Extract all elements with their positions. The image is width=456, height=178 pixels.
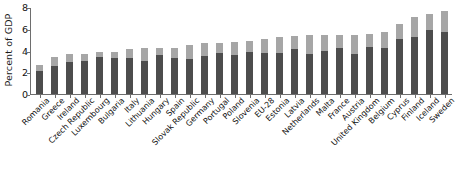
bar[interactable]: [216, 43, 224, 94]
bar[interactable]: [261, 39, 269, 94]
x-axis-category-labels: RomaniaGreeceIrelandCzech RepublicLuxemb…: [30, 96, 454, 178]
y-tick-mark: [27, 73, 30, 74]
bar-segment-lower: [411, 37, 419, 94]
bar-segment-lower: [246, 52, 254, 94]
bar-segment-lower: [321, 51, 329, 95]
y-tick-mark: [27, 30, 30, 31]
bar-segment-lower: [111, 58, 119, 94]
bar[interactable]: [51, 57, 59, 94]
bar-segment-upper: [366, 34, 374, 47]
bar[interactable]: [366, 34, 374, 94]
bar-segment-lower: [276, 53, 284, 94]
bar-segment-upper: [141, 48, 149, 61]
bar[interactable]: [111, 52, 119, 94]
bar[interactable]: [396, 24, 404, 94]
bar-segment-lower: [96, 57, 104, 94]
y-tick-mark: [27, 52, 30, 53]
bar-segment-lower: [231, 55, 239, 94]
bar-segment-upper: [51, 57, 59, 66]
bar-segment-lower: [261, 53, 269, 94]
bar[interactable]: [126, 49, 134, 94]
bar-segment-upper: [126, 49, 134, 58]
bar-segment-upper: [351, 35, 359, 53]
bar-segment-upper: [231, 42, 239, 55]
x-axis-line: [30, 94, 452, 95]
bar-segment-lower: [81, 61, 89, 94]
bar-segment-upper: [261, 39, 269, 53]
bar-segment-upper: [381, 32, 389, 48]
bar-series: [31, 8, 452, 94]
bar-segment-lower: [201, 56, 209, 94]
bar-segment-lower: [441, 32, 449, 94]
bar[interactable]: [201, 43, 209, 94]
bar[interactable]: [426, 14, 434, 94]
bar-segment-upper: [396, 24, 404, 38]
bar-segment-upper: [336, 35, 344, 48]
bar[interactable]: [81, 54, 89, 94]
bar[interactable]: [276, 37, 284, 94]
bar[interactable]: [66, 54, 74, 94]
bar-segment-upper: [201, 43, 209, 56]
bar[interactable]: [291, 36, 299, 94]
plot-area: [30, 8, 452, 95]
bar[interactable]: [321, 35, 329, 94]
bar-segment-lower: [216, 53, 224, 94]
bar-segment-upper: [81, 54, 89, 62]
bar[interactable]: [186, 45, 194, 94]
bar[interactable]: [306, 35, 314, 94]
bar-segment-lower: [426, 30, 434, 94]
bar-segment-lower: [396, 39, 404, 94]
bar[interactable]: [96, 52, 104, 94]
bar-segment-upper: [36, 65, 44, 72]
bar[interactable]: [171, 48, 179, 94]
bar-segment-lower: [366, 47, 374, 94]
bar-segment-lower: [141, 61, 149, 94]
bar[interactable]: [411, 17, 419, 94]
bar[interactable]: [246, 41, 254, 94]
bar-segment-upper: [66, 54, 74, 63]
bar-segment-lower: [51, 66, 59, 94]
y-tick-label: 0: [14, 90, 28, 100]
bar[interactable]: [231, 42, 239, 94]
bar-segment-lower: [306, 54, 314, 94]
bar-segment-upper: [441, 11, 449, 32]
bar-segment-upper: [321, 35, 329, 50]
bar[interactable]: [381, 32, 389, 94]
bar-segment-lower: [381, 48, 389, 94]
y-tick-label: 4: [14, 47, 28, 57]
y-axis-tick-labels: 02468: [12, 0, 28, 178]
bar[interactable]: [141, 48, 149, 94]
bar-segment-lower: [156, 55, 164, 94]
bar-segment-lower: [186, 59, 194, 94]
bar-segment-upper: [291, 36, 299, 49]
bar-segment-upper: [171, 48, 179, 58]
bar-segment-upper: [411, 17, 419, 38]
bar-segment-upper: [156, 48, 164, 55]
bar-segment-lower: [36, 71, 44, 94]
bar-segment-upper: [306, 35, 314, 53]
bar-segment-upper: [186, 45, 194, 59]
bar-segment-lower: [351, 54, 359, 94]
bar[interactable]: [351, 35, 359, 94]
bar[interactable]: [336, 35, 344, 94]
y-tick-label: 2: [14, 68, 28, 78]
bar-segment-upper: [111, 52, 119, 59]
bar-segment-lower: [126, 58, 134, 94]
bar-segment-lower: [171, 58, 179, 94]
bar[interactable]: [36, 65, 44, 94]
bar[interactable]: [441, 11, 449, 94]
y-tick-mark: [27, 8, 30, 9]
bar[interactable]: [156, 48, 164, 94]
bar-segment-lower: [336, 48, 344, 94]
bar-segment-lower: [66, 62, 74, 94]
bar-segment-upper: [426, 14, 434, 30]
y-tick-label: 8: [14, 3, 28, 13]
bar-segment-lower: [291, 49, 299, 94]
y-tick-label: 6: [14, 25, 28, 35]
bar-segment-upper: [216, 43, 224, 53]
bar-segment-upper: [276, 37, 284, 52]
bar-segment-upper: [246, 41, 254, 52]
